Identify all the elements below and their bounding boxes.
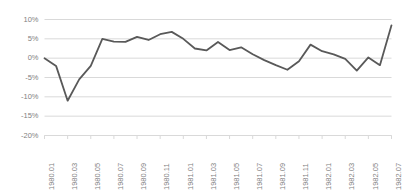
x-axis-tick-label: 1980.09 <box>140 162 148 189</box>
x-axis-tick-label: 1982.05 <box>372 162 380 189</box>
x-axis-tick-label: 1982.07 <box>395 162 403 189</box>
x-axis-tick-label: 1980.01 <box>48 162 56 189</box>
y-axis-tick-label: 5% <box>0 35 39 43</box>
x-axis-tick-label: 1980.07 <box>117 162 125 189</box>
y-axis-tick-label: 10% <box>0 16 39 24</box>
y-axis-tick-label: -15% <box>0 112 39 120</box>
gridlines <box>45 20 392 136</box>
x-axis-tick-label: 1981.03 <box>210 162 218 189</box>
x-axis-tick-label: 1982.03 <box>348 162 356 189</box>
y-axis-tick-label: -5% <box>0 74 39 82</box>
x-axis-tick-label: 1980.03 <box>71 162 79 189</box>
x-axis-tick-label: 1981.05 <box>233 162 241 189</box>
y-axis-tick-label: 0% <box>0 54 39 62</box>
x-axis-tick-label: 1982.01 <box>325 162 333 189</box>
x-axis-tick-label: 1981.07 <box>256 162 264 189</box>
x-axis-tick-label: 1981.11 <box>302 163 310 190</box>
x-axis-tick-label: 1980.05 <box>94 162 102 189</box>
x-axis-tick-label: 1981.01 <box>187 162 195 189</box>
x-axis-tick-label: 1981.09 <box>279 162 287 189</box>
data-series-line <box>45 25 392 100</box>
y-axis-tick-label: -10% <box>0 93 39 101</box>
line-chart: 10%5%0%-5%-10%-15%-20% 1980.011980.03198… <box>0 0 416 194</box>
x-axis-tick-label: 1980.11 <box>163 163 171 190</box>
x-axis-ticks <box>45 136 392 140</box>
y-axis-tick-label: -20% <box>0 132 39 140</box>
